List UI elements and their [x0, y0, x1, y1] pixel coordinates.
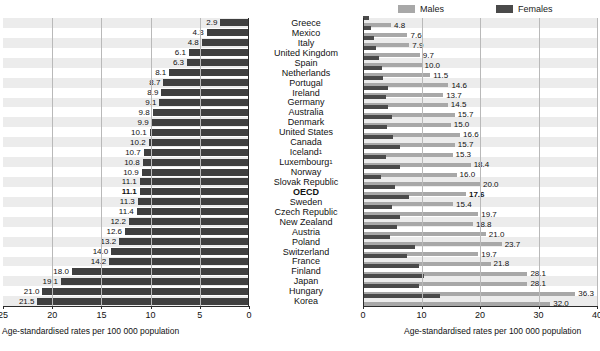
country-label-text: France: [292, 256, 320, 266]
right-female-bar: [363, 254, 407, 258]
country-label: Italy: [252, 38, 360, 48]
left-gridline: [151, 18, 152, 306]
country-label-text: Switzerland: [283, 247, 330, 257]
country-label: Finland: [252, 266, 360, 276]
left-bar-row: 2.9: [3, 18, 249, 28]
left-total-bar: [140, 188, 249, 195]
left-bar-row: 8.7: [3, 78, 249, 88]
country-label-text: Austria: [292, 227, 320, 237]
right-female-bar: [363, 95, 386, 99]
left-total-bar: [140, 178, 249, 185]
legend-entry-females: Females: [496, 4, 553, 14]
left-bar-row: 10.9: [3, 167, 249, 177]
country-label-text: Luxembourg: [279, 157, 329, 167]
right-female-bar: [363, 125, 387, 129]
right-female-bar: [363, 185, 395, 189]
left-bar-value: 10.9: [123, 168, 139, 177]
right-axis-edge: [363, 18, 364, 306]
left-total-bar: [109, 258, 249, 265]
right-female-bar: [363, 36, 374, 40]
left-total-bar: [125, 228, 249, 235]
left-bar-row: 10.1: [3, 127, 249, 137]
left-bar-value: 6.3: [173, 58, 184, 67]
left-total-bar: [143, 159, 249, 166]
left-bar-row: 11.4: [3, 207, 249, 217]
left-bar-row: 18.0: [3, 266, 249, 276]
left-axis-tick-label: 0: [246, 310, 251, 320]
country-label-text: Czech Republic: [274, 207, 337, 217]
country-label: Poland: [252, 237, 360, 247]
left-chart-panel: 2.94.34.86.16.38.18.78.99.19.89.910.110.…: [3, 18, 249, 306]
left-bar-row: 21.0: [3, 286, 249, 296]
right-female-bar: [363, 165, 400, 169]
right-axis-tick: [422, 306, 423, 309]
legend-swatch-females-icon: [496, 5, 513, 13]
left-bar-row: 4.8: [3, 38, 249, 48]
country-label-text: Denmark: [288, 117, 325, 127]
left-total-bar: [61, 278, 249, 285]
left-bar-value: 8.1: [155, 68, 166, 77]
country-label: United Kingdom: [252, 48, 360, 58]
country-label: New Zealand: [252, 217, 360, 227]
left-total-bar: [159, 99, 249, 106]
left-bar-row: 4.3: [3, 28, 249, 38]
country-label-text: Portugal: [289, 78, 323, 88]
right-axis-tick: [539, 306, 540, 309]
country-label: United States: [252, 127, 360, 137]
left-bar-value: 6.1: [175, 48, 186, 57]
country-label-text: Finland: [291, 266, 321, 276]
country-label: Denmark: [252, 117, 360, 127]
left-bar-row: 11.1: [3, 177, 249, 187]
country-label: Netherlands: [252, 68, 360, 78]
left-bar-value: 4.8: [188, 38, 199, 47]
country-label-text: Japan: [294, 276, 319, 286]
right-female-bar: [363, 105, 388, 109]
legend-swatch-males-icon: [398, 5, 415, 13]
country-label: OECD: [252, 187, 360, 197]
country-label: Norway: [252, 167, 360, 177]
right-gridline: [480, 18, 481, 306]
right-female-bar: [363, 245, 415, 249]
country-label-text: Canada: [290, 137, 322, 147]
left-total-bar: [111, 248, 249, 255]
left-bar-value: 2.9: [206, 18, 217, 27]
country-label: Ireland: [252, 88, 360, 98]
country-label-text: United States: [279, 127, 333, 137]
right-female-bar: [363, 46, 376, 50]
left-bar-value: 9.8: [138, 108, 149, 117]
right-female-bar: [363, 175, 381, 179]
country-label-text: Norway: [291, 167, 322, 177]
right-axis-tick: [597, 306, 598, 309]
left-gridline: [101, 18, 102, 306]
left-bar-value: 11.4: [119, 207, 134, 216]
left-bar-row: 11.1: [3, 187, 249, 197]
country-label-text: New Zealand: [279, 217, 332, 227]
legend-entry-males: Males: [398, 4, 444, 14]
country-label: Canada: [252, 137, 360, 147]
country-label: Switzerland: [252, 247, 360, 257]
country-label-text: Iceland: [290, 147, 319, 157]
left-bar-value: 12.6: [106, 227, 122, 236]
left-bar-value: 21.5: [19, 297, 35, 306]
right-female-bar: [363, 56, 379, 60]
right-female-bar: [363, 225, 397, 229]
right-female-bar: [363, 66, 382, 70]
left-axis-tick: [3, 306, 4, 309]
left-total-bar: [42, 288, 249, 295]
right-female-bar: [363, 76, 383, 80]
right-female-bar: [363, 155, 386, 159]
left-bar-row: 21.5: [3, 296, 249, 306]
country-label-text: Korea: [294, 296, 318, 306]
left-bar-value: 19.1: [42, 277, 58, 286]
left-axis-edge: [248, 18, 249, 306]
left-total-bar: [37, 298, 249, 305]
country-label: Spain: [252, 58, 360, 68]
left-bar-row: 12.6: [3, 227, 249, 237]
right-female-bar: [363, 294, 440, 298]
country-label: Mexico: [252, 28, 360, 38]
right-female-bar: [363, 235, 390, 239]
left-total-bar: [187, 59, 249, 66]
left-bar-value: 18.0: [53, 267, 69, 276]
country-label-text: Slovak Republic: [274, 177, 339, 187]
country-label: Portugal: [252, 78, 360, 88]
